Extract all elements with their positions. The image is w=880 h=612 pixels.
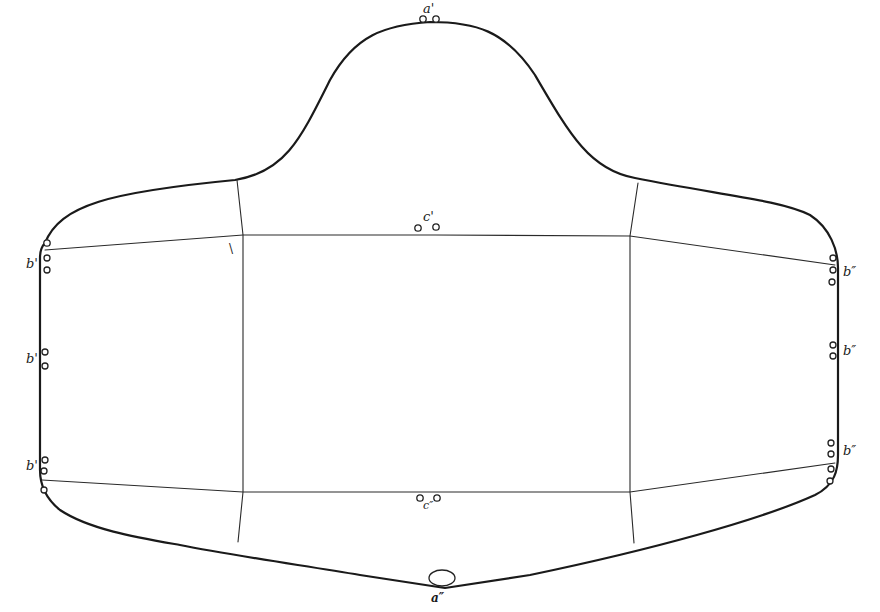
hole-left-lower-3: [41, 487, 47, 493]
pattern-outline: [40, 22, 838, 588]
left-vertical-fold: [237, 180, 243, 542]
corner-tick-mark: \: [229, 243, 233, 255]
hole-right-lower-4: [827, 478, 833, 484]
hole-left-lower-2: [41, 468, 47, 474]
label-b-right-lower: b″: [843, 444, 856, 457]
hole-left-upper-1: [44, 255, 50, 261]
hole-left-upper-2: [44, 267, 50, 273]
label-b-right-upper: b″: [843, 265, 856, 278]
hole-right-lower-2: [828, 451, 834, 457]
eyelet-a-bottom: [429, 570, 455, 586]
label-b-right-middle: b″: [843, 344, 856, 357]
lower-fold-line: [42, 463, 835, 492]
label-a-bottom: a″: [431, 592, 444, 604]
hole-left-lower-1: [42, 457, 48, 463]
label-c-bottom: c″: [423, 500, 433, 511]
upper-fold-line: [45, 235, 835, 265]
hole-left-middle-2: [42, 363, 48, 369]
hole-right-lower-3: [828, 466, 834, 472]
hole-left-corner: [44, 240, 50, 246]
label-b-left-upper: b': [26, 257, 38, 270]
hole-left-middle-1: [42, 349, 48, 355]
hole-c-top-2: [433, 224, 439, 230]
hole-a-top-2: [433, 16, 439, 22]
hole-right-upper-3: [829, 279, 835, 285]
label-b-left-middle: b': [26, 352, 38, 365]
hole-right-upper-1: [830, 255, 836, 261]
hole-right-upper-2: [830, 267, 836, 273]
label-c-top: c': [423, 210, 434, 223]
label-b-left-lower: b': [26, 459, 38, 472]
hole-a-top-1: [420, 16, 426, 22]
hole-right-middle-2: [830, 353, 836, 359]
hole-c-top-1: [415, 225, 421, 231]
pattern-diagram: [0, 0, 880, 612]
label-a-top: a': [423, 2, 434, 15]
hole-right-middle-1: [830, 342, 836, 348]
hole-c-bottom-2: [434, 495, 440, 501]
hole-right-lower-1: [828, 440, 834, 446]
